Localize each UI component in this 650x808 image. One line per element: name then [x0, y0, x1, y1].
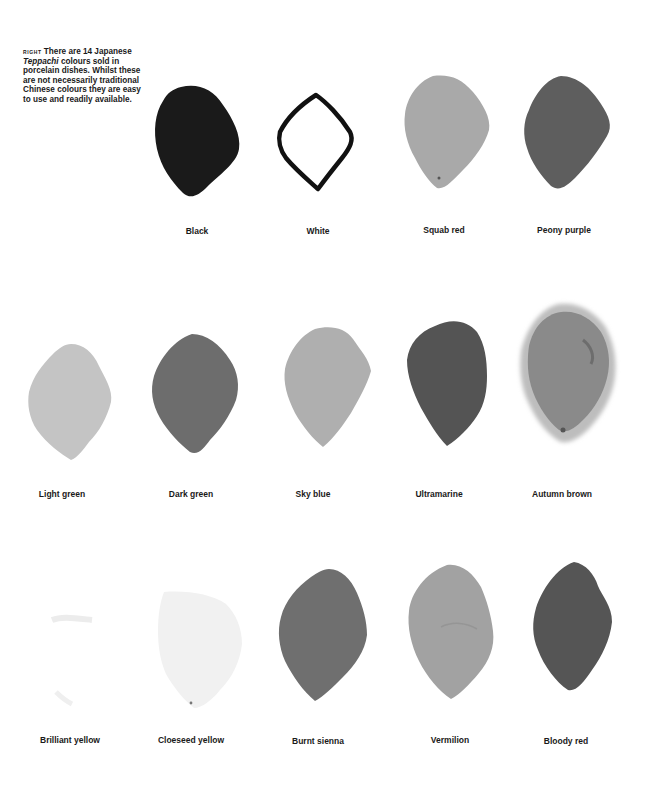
- swatch-label-ultramarine: Ultramarine: [415, 489, 462, 499]
- figure-caption: RIGHT There are 14 Japanese Teppachi col…: [23, 47, 148, 105]
- swatch-label-peony-purple: Peony purple: [537, 225, 591, 235]
- paint-blob-icon: [281, 325, 373, 449]
- swatch-black: [153, 83, 243, 203]
- paint-blob-icon: [277, 567, 369, 703]
- swatch-peony-purple: [521, 74, 613, 194]
- swatch-label-brilliant-yellow: Brilliant yellow: [40, 735, 100, 745]
- paint-blob-icon: [156, 590, 244, 712]
- swatch-label-dark-green: Dark green: [169, 489, 213, 499]
- swatch-label-white: White: [306, 226, 329, 236]
- paint-blob-icon: [519, 302, 617, 446]
- swatch-dark-green: [150, 332, 240, 456]
- swatch-label-cloeseed-yellow: Cloeseed yellow: [158, 735, 224, 745]
- paint-blob-icon: [407, 563, 497, 701]
- swatch-label-light-green: Light green: [39, 489, 85, 499]
- swatch-label-vermilion: Vermilion: [431, 735, 469, 745]
- swatch-light-green: [27, 342, 115, 462]
- swatch-label-squab-red: Squab red: [423, 225, 465, 235]
- swatch-cloeseed-yellow: [156, 590, 244, 712]
- swatch-vermilion: [407, 563, 497, 701]
- swatch-label-sky-blue: Sky blue: [296, 489, 331, 499]
- paint-outline-icon: [276, 92, 358, 194]
- paint-blob-icon: [153, 83, 243, 203]
- swatch-bloody-red: [532, 560, 614, 694]
- caption-tag: RIGHT: [23, 47, 42, 56]
- swatch-label-bloody-red: Bloody red: [544, 736, 588, 746]
- swatch-white: [276, 92, 358, 194]
- swatch-label-black: Black: [186, 226, 209, 236]
- paint-blob-icon: [48, 612, 98, 712]
- caption-text-start: There are 14 Japanese: [44, 47, 132, 56]
- paint-blob-icon: [150, 332, 240, 456]
- swatch-autumn-brown: [519, 302, 617, 446]
- swatch-label-burnt-sienna: Burnt sienna: [292, 736, 344, 746]
- swatch-brilliant-yellow: [48, 612, 98, 712]
- caption-emphasis: Teppachi: [23, 57, 59, 66]
- swatch-burnt-sienna: [277, 567, 369, 703]
- paint-blob-icon: [27, 342, 115, 462]
- swatch-squab-red: [401, 74, 491, 194]
- paint-blob-icon: [405, 318, 491, 448]
- paint-blob-icon: [401, 74, 491, 194]
- swatch-ultramarine: [405, 318, 491, 448]
- swatch-label-autumn-brown: Autumn brown: [532, 489, 592, 499]
- swatch-sky-blue: [281, 325, 373, 449]
- paint-blob-icon: [532, 560, 614, 694]
- paint-blob-icon: [521, 74, 613, 194]
